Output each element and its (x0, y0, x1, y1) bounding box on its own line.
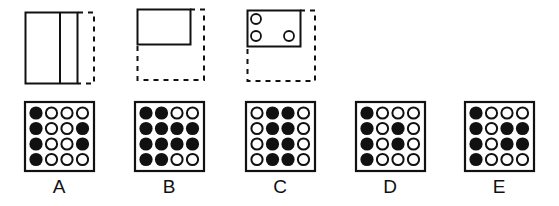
empty-hole-icon (61, 154, 72, 165)
filled-hole-icon (155, 106, 168, 119)
empty-hole-icon (486, 123, 497, 134)
empty-hole-icon (501, 107, 512, 118)
filled-hole-icon (516, 122, 529, 135)
empty-hole-icon (298, 107, 309, 118)
empty-hole-icon (486, 138, 497, 149)
filled-hole-icon (139, 137, 152, 150)
filled-hole-icon (281, 137, 294, 150)
empty-hole-icon (408, 123, 419, 134)
filled-hole-icon (469, 106, 482, 119)
question-figure-2 (138, 10, 205, 81)
filled-hole-icon (266, 122, 279, 135)
filled-hole-icon (29, 106, 42, 119)
empty-hole-icon (408, 107, 419, 118)
empty-hole-icon (77, 154, 88, 165)
answer-options (25, 102, 534, 171)
empty-hole-icon (251, 154, 262, 165)
filled-hole-icon (469, 153, 482, 166)
filled-hole-icon (186, 122, 199, 135)
empty-hole-icon (251, 123, 262, 134)
empty-hole-icon (61, 138, 72, 149)
filled-hole-icon (281, 153, 294, 166)
filled-hole-icon (469, 122, 482, 135)
empty-hole-icon (517, 154, 528, 165)
empty-hole-icon (171, 107, 182, 118)
filled-hole-icon (266, 137, 279, 150)
empty-hole-icon (517, 107, 528, 118)
empty-hole-icon (377, 123, 388, 134)
empty-hole-icon (46, 123, 57, 134)
filled-hole-icon (500, 122, 513, 135)
filled-hole-icon (281, 122, 294, 135)
filled-hole-icon (186, 137, 199, 150)
empty-hole-icon (486, 154, 497, 165)
option-c-grid[interactable] (246, 102, 315, 171)
filled-hole-icon (360, 137, 373, 150)
empty-hole-icon (46, 138, 57, 149)
option-label-c[interactable]: C (260, 176, 300, 198)
hole-icon (251, 14, 261, 24)
empty-hole-icon (61, 107, 72, 118)
filled-hole-icon (281, 106, 294, 119)
filled-hole-icon (155, 153, 168, 166)
option-label-e[interactable]: E (479, 176, 519, 198)
empty-hole-icon (392, 154, 403, 165)
empty-hole-icon (408, 154, 419, 165)
empty-hole-icon (377, 107, 388, 118)
empty-hole-icon (46, 107, 57, 118)
option-b-grid[interactable] (135, 102, 204, 171)
filled-hole-icon (360, 153, 373, 166)
empty-hole-icon (251, 107, 262, 118)
empty-hole-icon (298, 138, 309, 149)
option-label-d[interactable]: D (370, 176, 410, 198)
filled-hole-icon (76, 137, 89, 150)
filled-hole-icon (170, 137, 183, 150)
filled-hole-icon (391, 122, 404, 135)
filled-hole-icon (139, 153, 152, 166)
option-label-a[interactable]: A (39, 176, 79, 198)
empty-hole-icon (392, 107, 403, 118)
filled-hole-icon (266, 106, 279, 119)
option-d-grid[interactable] (356, 102, 425, 171)
empty-hole-icon (61, 123, 72, 134)
empty-hole-icon (251, 138, 262, 149)
option-a-grid[interactable] (25, 102, 94, 171)
hole-icon (284, 31, 294, 41)
filled-hole-icon (360, 122, 373, 135)
hole-icon (251, 31, 261, 41)
empty-hole-icon (77, 107, 88, 118)
empty-hole-icon (377, 138, 388, 149)
empty-hole-icon (298, 154, 309, 165)
empty-hole-icon (171, 154, 182, 165)
filled-hole-icon (155, 122, 168, 135)
filled-hole-icon (266, 153, 279, 166)
option-e-grid[interactable] (465, 102, 534, 171)
filled-hole-icon (76, 122, 89, 135)
question-figure-1 (26, 13, 95, 84)
filled-hole-icon (500, 137, 513, 150)
filled-hole-icon (360, 106, 373, 119)
filled-hole-icon (391, 137, 404, 150)
filled-hole-icon (29, 153, 42, 166)
empty-hole-icon (501, 154, 512, 165)
filled-hole-icon (29, 137, 42, 150)
filled-hole-icon (139, 106, 152, 119)
empty-hole-icon (187, 107, 198, 118)
empty-hole-icon (298, 123, 309, 134)
filled-hole-icon (155, 137, 168, 150)
empty-hole-icon (486, 107, 497, 118)
question-figure-3 (248, 11, 316, 82)
empty-hole-icon (187, 154, 198, 165)
filled-hole-icon (139, 122, 152, 135)
filled-hole-icon (516, 137, 529, 150)
empty-hole-icon (408, 138, 419, 149)
option-label-b[interactable]: B (149, 176, 189, 198)
filled-hole-icon (170, 122, 183, 135)
empty-hole-icon (377, 154, 388, 165)
empty-hole-icon (46, 154, 57, 165)
filled-hole-icon (469, 137, 482, 150)
filled-hole-icon (29, 122, 42, 135)
